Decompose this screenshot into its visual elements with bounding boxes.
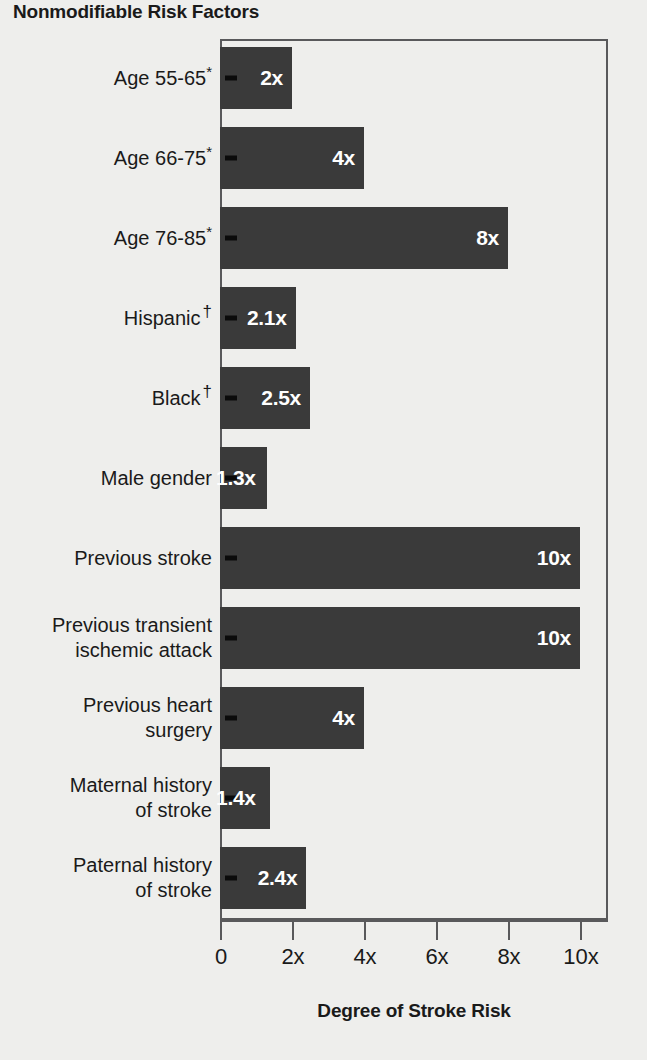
bar-row-label: Age 66-75* [0, 146, 212, 171]
x-axis-tick [292, 920, 294, 940]
bar-value-label: 2x [260, 66, 283, 90]
x-axis-tick-label: 4x [353, 944, 376, 970]
bar: 10x [220, 527, 580, 589]
bar-value-label: 4x [332, 706, 355, 730]
footnote-marker: † [201, 302, 212, 321]
x-axis-tick-label: 6x [425, 944, 448, 970]
bar-row: Hispanic†2.1x [0, 279, 647, 358]
bar-value-label: 1.3x [216, 466, 256, 490]
bar-row-label: Maternal historyof stroke [0, 773, 212, 823]
bar: 10x [220, 607, 580, 669]
bar-value-label: 10x [537, 626, 571, 650]
bar-value-label: 2.5x [261, 386, 301, 410]
bar-row: Black†2.5x [0, 359, 647, 438]
bar-value-label: 2.1x [247, 306, 287, 330]
bar-row: Previous stroke10x [0, 519, 647, 598]
x-axis-tick [436, 920, 438, 940]
x-axis-tick [364, 920, 366, 940]
bar: 1.3x [220, 447, 267, 509]
bar-row-label: Age 76-85* [0, 226, 212, 251]
bar: 2.4x [220, 847, 306, 909]
bar-baseline-tick [225, 716, 237, 721]
bar-row-label: Previous stroke [0, 546, 212, 571]
x-axis-tick-label: 0 [215, 944, 227, 970]
footnote-marker: † [201, 382, 212, 401]
x-axis-tick [580, 920, 582, 940]
bar: 2x [220, 47, 292, 109]
bar-baseline-tick [225, 636, 237, 641]
bar-row-label: Male gender [0, 466, 212, 491]
bar-baseline-tick [225, 316, 237, 321]
footnote-marker: * [206, 63, 212, 80]
bar: 2.5x [220, 367, 310, 429]
bar-baseline-tick [225, 156, 237, 161]
bar-row: Previous transientischemic attack10x [0, 599, 647, 678]
x-axis-tick-label: 8x [497, 944, 520, 970]
bar-baseline-tick [225, 76, 237, 81]
bar: 8x [220, 207, 508, 269]
bar-row-label: Previous heartsurgery [0, 693, 212, 743]
bar-value-label: 8x [476, 226, 499, 250]
bar-row: Paternal historyof stroke2.4x [0, 839, 647, 918]
x-axis-tick [220, 920, 222, 940]
bar-baseline-tick [225, 876, 237, 881]
bar: 1.4x [220, 767, 270, 829]
bar-row: Maternal historyof stroke1.4x [0, 759, 647, 838]
x-axis: 02x4x6x8x10x [220, 920, 608, 921]
x-axis-title: Degree of Stroke Risk [220, 1000, 608, 1022]
bar-baseline-tick [225, 556, 237, 561]
x-axis-tick [508, 920, 510, 940]
bar-row: Male gender1.3x [0, 439, 647, 518]
stroke-risk-chart: Nonmodifiable Risk Factors Age 55-65*2xA… [0, 0, 647, 1060]
bar-row: Previous heartsurgery4x [0, 679, 647, 758]
bar-row: Age 66-75*4x [0, 119, 647, 198]
bar-row-label: Previous transientischemic attack [0, 613, 212, 663]
bar-value-label: 10x [537, 546, 571, 570]
footnote-marker: * [206, 223, 212, 240]
bar: 4x [220, 687, 364, 749]
bar-baseline-tick [225, 396, 237, 401]
bar-value-label: 4x [332, 146, 355, 170]
bar-row-label: Paternal historyof stroke [0, 853, 212, 903]
x-axis-tick-label: 2x [281, 944, 304, 970]
bar-row-label: Age 55-65* [0, 66, 212, 91]
bar-baseline-tick [225, 236, 237, 241]
bar: 2.1x [220, 287, 296, 349]
page-title: Nonmodifiable Risk Factors [13, 1, 259, 23]
bar-row: Age 76-85*8x [0, 199, 647, 278]
footnote-marker: * [206, 143, 212, 160]
bar-row: Age 55-65*2x [0, 39, 647, 118]
bar-value-label: 1.4x [216, 786, 256, 810]
bar-row-label: Hispanic† [0, 306, 212, 331]
bar-rows: Age 55-65*2xAge 66-75*4xAge 76-85*8xHisp… [0, 39, 647, 920]
bar-value-label: 2.4x [258, 866, 298, 890]
bar-row-label: Black† [0, 386, 212, 411]
x-axis-tick-label: 10x [563, 944, 598, 970]
bar: 4x [220, 127, 364, 189]
x-axis-line [220, 920, 608, 922]
